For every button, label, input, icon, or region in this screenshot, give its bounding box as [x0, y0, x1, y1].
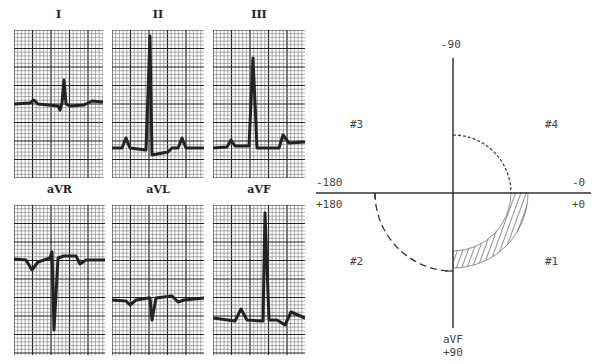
quadrant-label-4: #4	[545, 118, 558, 131]
hexaxial-axis-diagram	[0, 0, 597, 364]
quadrant-label-2: #2	[350, 255, 363, 268]
dotted-arc-upper	[453, 135, 511, 193]
label-avf: aVF	[443, 333, 463, 346]
quadrant-label-1: #1	[545, 255, 558, 268]
label-minus-0: -0	[572, 176, 585, 189]
quadrant-label-3: #3	[350, 118, 363, 131]
label-plus-90: +90	[443, 346, 463, 359]
label-minus-180: -180	[316, 176, 343, 189]
hatched-sector	[453, 193, 528, 268]
label-plus-180: +180	[316, 198, 343, 211]
dashed-arc-lower-left	[375, 193, 453, 271]
label-plus-0: +0	[572, 198, 585, 211]
label-minus-90: -90	[441, 38, 461, 51]
